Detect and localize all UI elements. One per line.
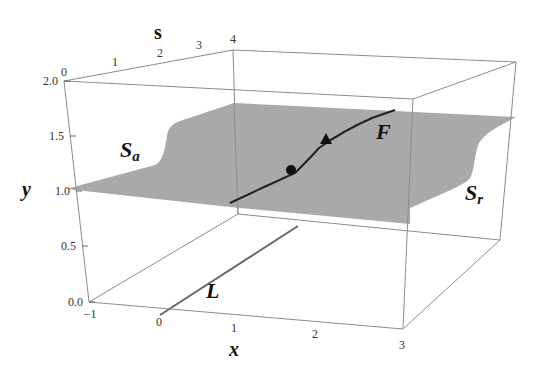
s-axis-tick-labels: 0 1 2 3 4 [61, 32, 236, 79]
y-axis-label: y [20, 178, 31, 201]
svg-text:1: 1 [231, 321, 237, 335]
svg-text:0: 0 [61, 65, 67, 79]
svg-text:1.5: 1.5 [49, 129, 64, 143]
x-axis-tick-labels: −1 0 1 2 3 [84, 307, 405, 352]
3d-plot: 2.0 1.5 1.0 0.5 0.0 y −1 0 1 2 3 x 0 1 2… [0, 0, 540, 370]
svg-text:1: 1 [112, 55, 118, 69]
svg-text:0.5: 0.5 [61, 239, 76, 253]
svg-text:3: 3 [196, 38, 202, 52]
equilibrium-dot [286, 165, 296, 175]
s-axis-label: s [154, 21, 162, 43]
svg-text:3: 3 [399, 338, 405, 352]
svg-text:0: 0 [156, 315, 162, 329]
svg-text:0.0: 0.0 [68, 295, 83, 309]
Sr-label: Sr [465, 180, 483, 207]
L-line [160, 226, 298, 315]
x-axis-label: x [228, 338, 239, 360]
svg-text:2: 2 [312, 327, 318, 341]
svg-text:−1: −1 [84, 307, 97, 321]
svg-text:2: 2 [157, 46, 163, 60]
svg-text:4: 4 [230, 32, 236, 46]
svg-text:2.0: 2.0 [43, 74, 58, 88]
F-label: F [375, 119, 391, 144]
svg-text:1.0: 1.0 [55, 184, 70, 198]
Sa-label: Sa [120, 137, 140, 164]
L-label: L [205, 278, 219, 303]
